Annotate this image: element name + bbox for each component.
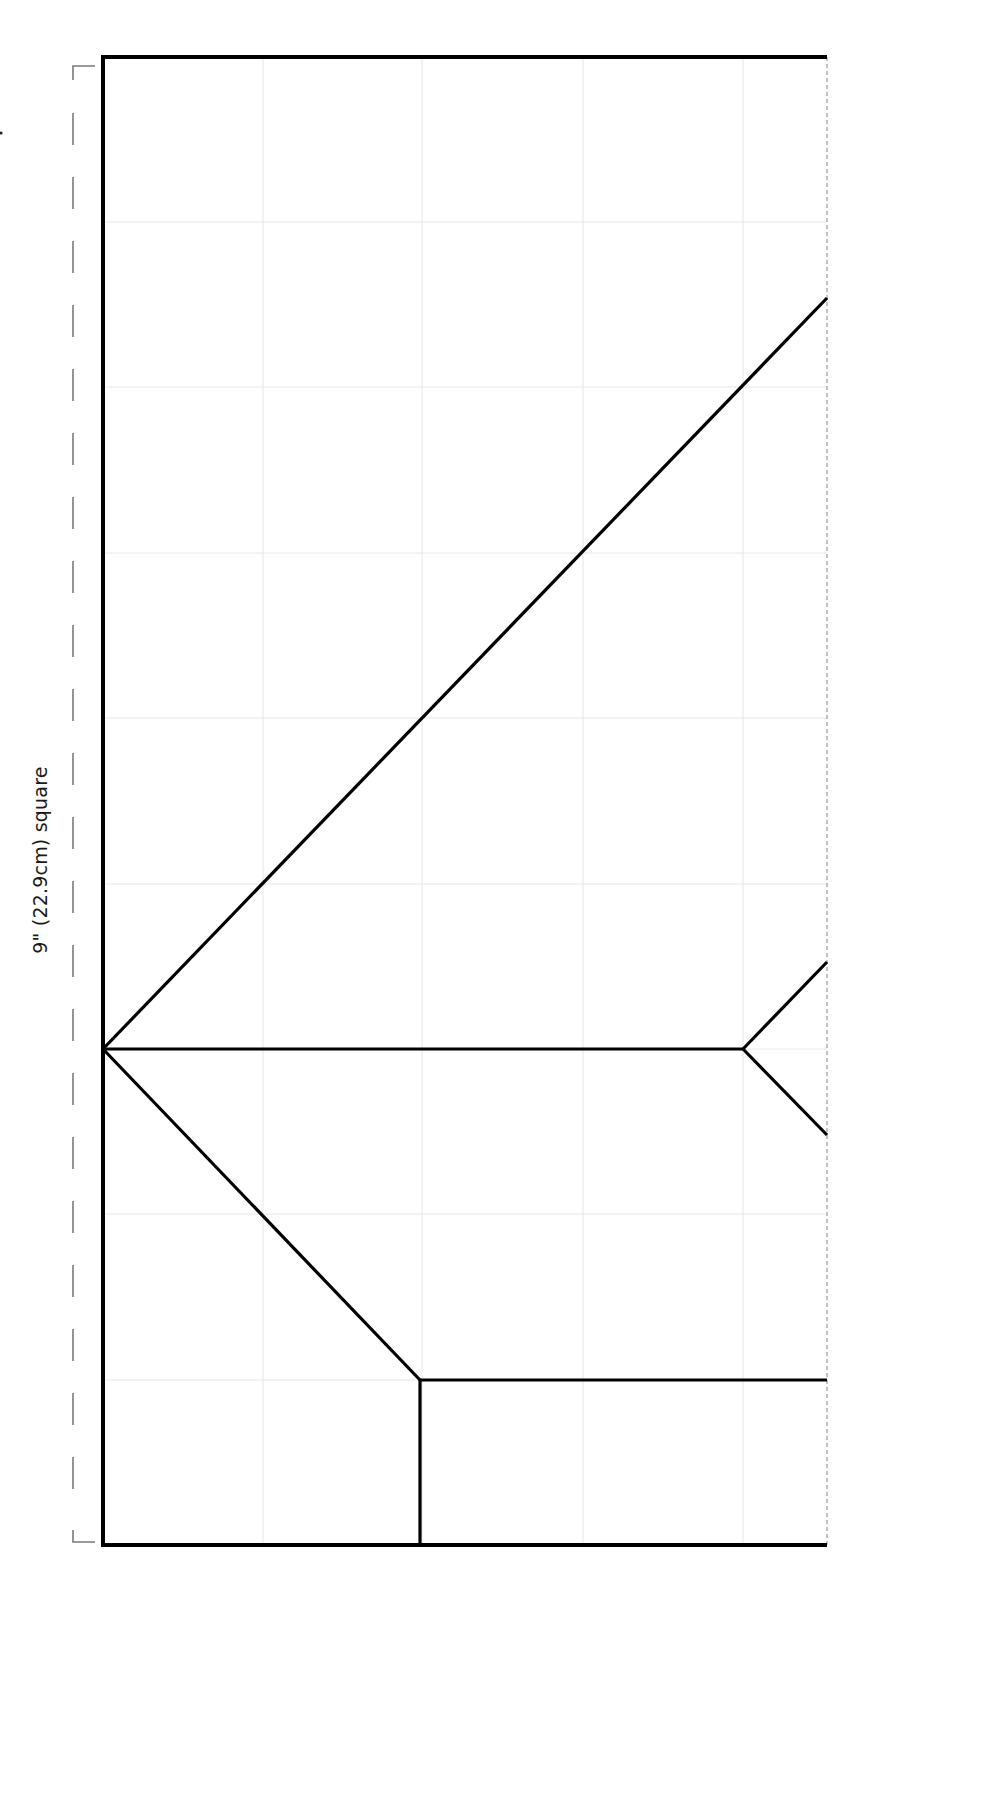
dimension-bracket <box>73 66 95 1542</box>
fold-lines <box>103 298 827 1545</box>
bracket-top-corner <box>73 66 95 80</box>
grid-lines <box>103 57 827 1545</box>
fold-line-arrow-upper <box>743 962 827 1049</box>
panel-frame <box>103 57 827 1545</box>
edge-dot-mark <box>0 131 3 134</box>
dimension-label: 9" (22.9cm) square <box>29 766 51 953</box>
fold-line-arrow-lower <box>743 1049 827 1135</box>
fold-diagram <box>0 0 985 1818</box>
fold-line-long-diagonal <box>103 298 827 1049</box>
bracket-bottom-corner <box>73 1530 95 1542</box>
